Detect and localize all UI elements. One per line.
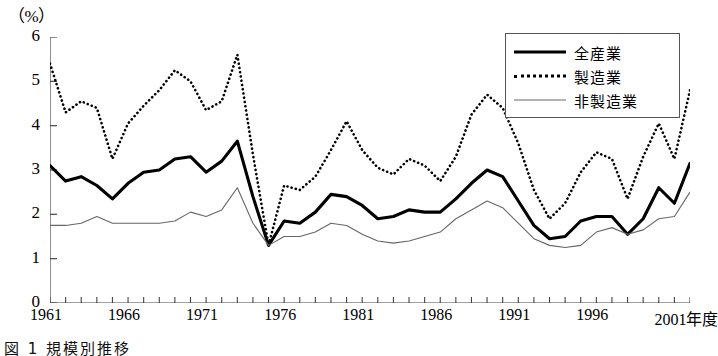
- y-tick-label: 4: [14, 115, 40, 135]
- legend-key-line-icon: [514, 94, 566, 106]
- x-tick-label: 1991: [498, 306, 530, 324]
- x-tick-label: 1986: [420, 306, 452, 324]
- legend-item: 全産業: [514, 40, 671, 64]
- x-tick-label: 1996: [576, 306, 608, 324]
- legend-item: 製造業: [514, 64, 671, 88]
- chart-legend: 全産業 製造業 非製造業: [505, 33, 680, 118]
- x-tick-label: 1961: [30, 306, 62, 324]
- y-tick-label: 2: [14, 203, 40, 223]
- legend-item: 非製造業: [514, 88, 671, 112]
- figure-caption: 図 1 規模別推移: [4, 337, 131, 356]
- legend-label: 全産業: [574, 42, 622, 63]
- legend-label: 製造業: [574, 66, 622, 87]
- legend-label: 非製造業: [574, 90, 638, 111]
- x-tick-label: 1981: [342, 306, 374, 324]
- series-line-solid-thick: [50, 141, 690, 245]
- legend-key-line-icon: [514, 46, 566, 58]
- x-tick-label: 1966: [108, 306, 140, 324]
- y-tick-label: 5: [14, 70, 40, 90]
- y-axis-unit-label: （%）: [8, 2, 55, 27]
- x-tick-label: 1976: [264, 306, 296, 324]
- y-tick-label: 6: [14, 26, 40, 46]
- x-tick-label: 1971: [186, 306, 218, 324]
- legend-key-line-icon: [514, 70, 566, 82]
- x-tick-label: 2001年度: [654, 306, 718, 330]
- y-tick-label: 1: [14, 248, 40, 268]
- y-tick-label: 3: [14, 159, 40, 179]
